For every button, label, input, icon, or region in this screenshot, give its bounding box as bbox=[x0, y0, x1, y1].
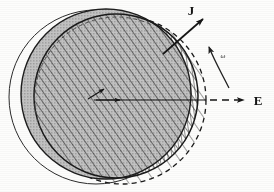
figure-canvas: J ω E bbox=[0, 0, 274, 192]
omega-label: ω bbox=[221, 52, 226, 60]
vertical-hatched-crescent bbox=[0, 0, 274, 192]
vertical-hatch-fill bbox=[0, 0, 274, 192]
j-vector-label: J bbox=[188, 3, 195, 18]
physics-figure: J ω E bbox=[0, 0, 274, 192]
e-field-label: E bbox=[254, 93, 263, 108]
